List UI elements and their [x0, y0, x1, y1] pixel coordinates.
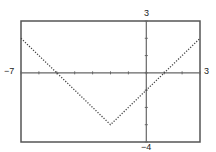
x-max-label: 3: [204, 67, 209, 76]
x-min-label: −7: [4, 67, 14, 76]
y-max-label: 3: [144, 9, 149, 18]
y-min-label: −4: [141, 143, 151, 152]
function-curve: [21, 38, 200, 124]
graph-window: [0, 0, 216, 152]
